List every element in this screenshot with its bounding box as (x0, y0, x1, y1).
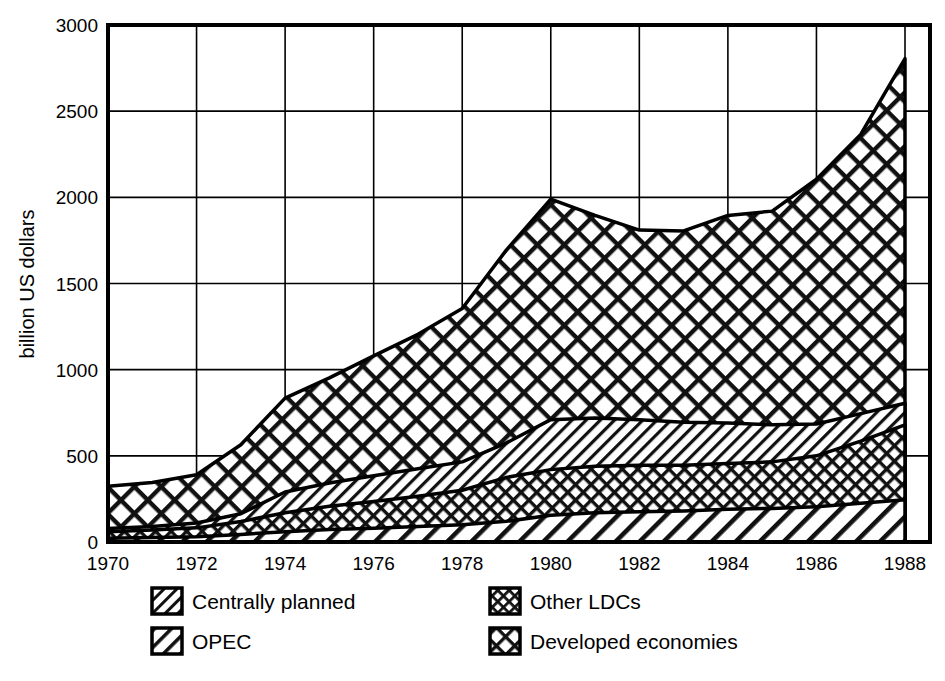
y-tick-label: 500 (66, 446, 98, 467)
legend-swatch-other-ldcs (490, 588, 520, 614)
stacked-area-chart: 050010001500200025003000 197019721974197… (0, 0, 945, 681)
y-tick-label: 3000 (56, 15, 98, 36)
y-tick-label: 2500 (56, 101, 98, 122)
y-tick-label: 1500 (56, 274, 98, 295)
x-tick-label: 1988 (884, 553, 926, 574)
legend-item-other-ldcs: Other LDCs (490, 588, 641, 614)
y-tick-label: 2000 (56, 187, 98, 208)
legend-swatch-centrally-planned (152, 588, 182, 614)
legend-swatch-developed-economies (490, 628, 520, 654)
legend-label-centrally-planned: Centrally planned (192, 590, 355, 613)
x-tick-label: 1970 (87, 553, 129, 574)
legend-label-opec: OPEC (192, 630, 252, 653)
y-axis-title: billion US dollars (16, 210, 38, 359)
legend-swatch-opec (152, 628, 182, 654)
x-tick-label: 1972 (175, 553, 217, 574)
y-tick-label: 1000 (56, 360, 98, 381)
x-tick-label: 1974 (264, 553, 307, 574)
y-tick-label: 0 (87, 532, 98, 553)
legend-label-developed-economies: Developed economies (530, 630, 738, 653)
legend-item-centrally-planned: Centrally planned (152, 588, 355, 614)
x-tick-label: 1982 (618, 553, 660, 574)
x-tick-label: 1978 (441, 553, 483, 574)
legend-label-other-ldcs: Other LDCs (530, 590, 641, 613)
x-tick-label: 1986 (795, 553, 837, 574)
x-tick-label: 1976 (353, 553, 395, 574)
chart-container: 050010001500200025003000 197019721974197… (0, 0, 945, 681)
legend-item-opec: OPEC (152, 628, 252, 654)
x-tick-label: 1980 (530, 553, 572, 574)
x-tick-label: 1984 (707, 553, 750, 574)
